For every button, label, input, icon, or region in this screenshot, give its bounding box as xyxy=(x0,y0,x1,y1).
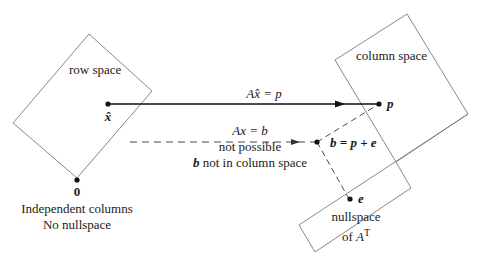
b-to-e-dashed xyxy=(317,142,349,199)
zero-point xyxy=(74,177,79,182)
not-in-column-space-text: not in column space xyxy=(199,155,307,170)
b-equation-label: b = p + e xyxy=(330,135,377,150)
b-not-in-column-space-label: b not in column space xyxy=(193,155,307,170)
x-hat-label: x̂ xyxy=(105,109,112,124)
caption-line-2: No nullspace xyxy=(43,217,111,232)
left-nullspace-label-2: of AT xyxy=(342,225,370,244)
of-text: of xyxy=(342,229,356,244)
matrix-a: A xyxy=(356,229,364,244)
impossible-equation: Ax = b xyxy=(232,123,267,138)
transpose-sup: T xyxy=(364,227,370,238)
x-hat-point xyxy=(105,101,110,106)
left-nullspace-label-1: nullspace xyxy=(331,209,380,224)
zero-label: 0 xyxy=(74,184,81,199)
column-space-label: column space xyxy=(356,48,427,63)
arrowhead-icon xyxy=(291,139,300,145)
e-label: e xyxy=(358,191,364,206)
p-point xyxy=(376,101,381,106)
p-label: p xyxy=(387,96,394,111)
not-possible-label: not possible xyxy=(219,139,281,154)
projection-equation: Ax̂ = p xyxy=(246,86,281,101)
caption-line-1: Independent columns xyxy=(21,201,133,216)
e-point xyxy=(347,196,352,201)
row-space-label: row space xyxy=(69,62,121,77)
left-nullspace-shape xyxy=(299,114,468,252)
row-space-shape xyxy=(13,34,152,178)
b-point xyxy=(314,139,319,144)
arrowhead-icon xyxy=(335,101,345,108)
